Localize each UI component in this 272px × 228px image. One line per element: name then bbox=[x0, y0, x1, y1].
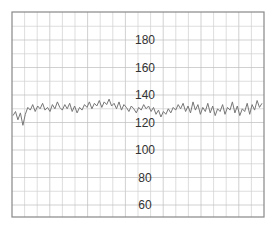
y-tick-label: 140 bbox=[135, 88, 155, 102]
y-tick-label: 120 bbox=[135, 116, 155, 130]
y-tick-label: 180 bbox=[135, 33, 155, 47]
y-tick-label: 80 bbox=[138, 171, 152, 185]
y-tick-label: 100 bbox=[135, 143, 155, 157]
fetal-monitor-chart: 1801601401201008060 bbox=[0, 0, 272, 228]
y-tick-label: 60 bbox=[138, 198, 152, 212]
y-tick-label: 160 bbox=[135, 61, 155, 75]
